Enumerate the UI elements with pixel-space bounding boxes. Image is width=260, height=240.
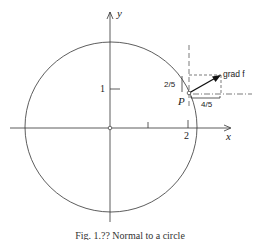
horizontal-component-bracket bbox=[191, 96, 220, 98]
origin-marker bbox=[108, 126, 112, 130]
grad-f-label: grad f bbox=[223, 70, 245, 79]
y-tick-label-1: 1 bbox=[100, 84, 105, 94]
point-p-label: P bbox=[178, 96, 185, 107]
x-axis-label: x bbox=[226, 131, 231, 142]
gradient-arrowhead-icon bbox=[212, 75, 221, 82]
diagram-canvas bbox=[0, 0, 260, 240]
figure-caption: Fig. 1.?? Normal to a circle bbox=[0, 231, 260, 240]
x-tick-label-2: 2 bbox=[184, 131, 189, 141]
figure: y x 1 2 P 2/5 4/5 grad f Fig. 1.?? Norma… bbox=[0, 0, 260, 240]
y-axis-label: y bbox=[117, 8, 122, 19]
point-p-marker bbox=[187, 91, 191, 95]
vertical-component-label: 2/5 bbox=[164, 81, 175, 89]
horizontal-component-label: 4/5 bbox=[201, 101, 212, 109]
